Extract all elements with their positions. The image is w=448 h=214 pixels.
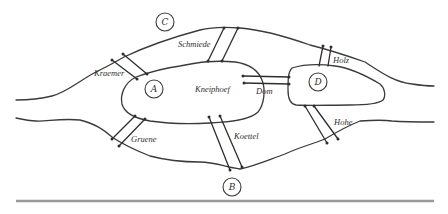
island-d-outline <box>288 65 385 106</box>
bridge-gruene-label: Gruene <box>131 134 157 144</box>
bridge-dom[interactable] <box>242 75 291 86</box>
bridge-dom-label: Dom <box>255 86 273 96</box>
node-d-label: D <box>313 77 321 87</box>
bridge-koettel-label: Koettel <box>233 131 259 141</box>
island-kneiphoef-label: Kneiphoef <box>194 84 232 94</box>
node-a[interactable]: A <box>145 80 163 98</box>
node-b[interactable]: B <box>223 178 241 196</box>
node-c[interactable]: C <box>156 13 174 31</box>
node-c-label: C <box>162 17 169 27</box>
bridge-schmiede[interactable] <box>207 27 240 63</box>
south-river-bank <box>16 118 434 169</box>
bridge-hohe-label: Hohe <box>333 117 353 127</box>
node-d[interactable]: D <box>309 73 327 91</box>
node-b-label: B <box>228 182 236 192</box>
konigsberg-bridges-diagram: C A D B Kneiphoef Kraemer Schmiede Holz … <box>0 0 448 214</box>
bridge-kraemer-label: Kraemer <box>93 68 125 78</box>
bridge-holz-label: Holz <box>332 55 350 65</box>
node-a-label: A <box>150 84 158 94</box>
bridge-schmiede-label: Schmiede <box>178 39 211 49</box>
